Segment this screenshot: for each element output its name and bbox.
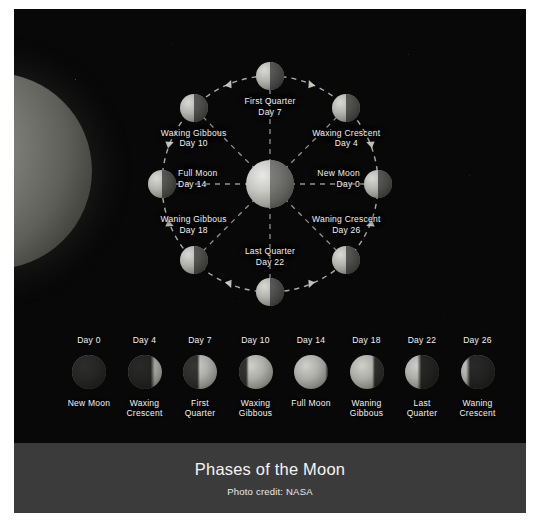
phase-cell-day: Day 4 (113, 334, 177, 346)
phase-cell-day: Day 22 (390, 334, 454, 346)
orbit-moon-name: Waxing Gibbous (134, 128, 254, 139)
page-title: Phases of the Moon (195, 460, 345, 479)
phase-cell-name: WaxingGibbous (224, 398, 288, 418)
phase-moon-shadow (128, 355, 162, 389)
phase-cell-name-line2: Gibbous (224, 408, 288, 418)
phase-cell-name-line1: Waxing (224, 398, 288, 408)
phase-moon-shadow (239, 355, 273, 389)
orbit-moon-day: Day 10 (134, 138, 254, 149)
orbit-moon-name: Waning Gibbous (134, 214, 254, 225)
phase-moon-icon (183, 355, 217, 389)
phase-cell-name-line2: Crescent (113, 408, 177, 418)
phase-moon-icon (294, 355, 328, 389)
phase-moon-icon (128, 355, 162, 389)
phase-cell-name-line1: Waning (446, 398, 510, 408)
orbit-moon-day: Day 7 (210, 107, 330, 118)
phase-moon-icon (405, 355, 439, 389)
orbit-moon-name: First Quarter (210, 96, 330, 107)
caption-band: Phases of the Moon Photo credit: NASA (14, 443, 526, 513)
orbit-moon-day: Day 14 (178, 179, 218, 190)
orbit-moon-label: Waxing CrescentDay 4 (286, 128, 406, 149)
phase-cell-day: Day 0 (57, 334, 121, 346)
phase-cell-name-line1: Waning (335, 398, 399, 408)
orbit-moon-day: Day 22 (210, 257, 330, 268)
orbit-diagram: New MoonDay 0Waxing CrescentDay 4First Q… (14, 9, 526, 329)
phase-moon-icon (72, 355, 106, 389)
orbit-moon (180, 94, 208, 122)
phase-cell-name: New Moon (57, 398, 121, 408)
phase-cell: Day 0New Moon (57, 334, 121, 444)
phase-cell-name: LastQuarter (390, 398, 454, 418)
orbit-moon-day: Day 18 (134, 225, 254, 236)
phase-cell-name-line2: Quarter (390, 408, 454, 418)
phase-cell: Day 22LastQuarter (390, 334, 454, 444)
phase-moon-icon (461, 355, 495, 389)
phase-moon-shadow (350, 355, 384, 389)
orbit-moon-day: Day 4 (286, 138, 406, 149)
phase-cell: Day 7FirstQuarter (168, 334, 232, 444)
phase-cell: Day 4WaxingCrescent (113, 334, 177, 444)
phase-cell-name-line1: First (168, 398, 232, 408)
phase-cell-name: WaxingCrescent (113, 398, 177, 418)
orbit-moon-day: Day 26 (286, 225, 406, 236)
orbit-moon (364, 170, 392, 198)
phase-cell-name-line2: Gibbous (335, 408, 399, 418)
phase-cell-day: Day 18 (335, 334, 399, 346)
phase-cell-name-line2: Crescent (446, 408, 510, 418)
orbit-moon-name: Last Quarter (210, 246, 330, 257)
phase-cell-day: Day 10 (224, 334, 288, 346)
phase-cell-name-line1: Full Moon (279, 398, 343, 408)
phase-moon-shadow (405, 355, 439, 389)
phase-moon-icon (239, 355, 273, 389)
phase-cell-name: WaningCrescent (446, 398, 510, 418)
phase-cell-name: FirstQuarter (168, 398, 232, 418)
orbit-moon-name: Waning Crescent (286, 214, 406, 225)
orbit-moon-label: Waning CrescentDay 26 (286, 214, 406, 235)
phase-cell-day: Day 26 (446, 334, 510, 346)
phase-cell-name-line1: Waxing (113, 398, 177, 408)
phase-cell-day: Day 14 (279, 334, 343, 346)
orbit-moon-label: Waxing GibbousDay 10 (134, 128, 254, 149)
phase-cell: Day 10WaxingGibbous (224, 334, 288, 444)
phase-cell-name-line1: Last (390, 398, 454, 408)
phase-strip: Day 0New MoonDay 4WaxingCrescentDay 7Fir… (14, 334, 526, 444)
orbit-moon-label: Waning GibbousDay 18 (134, 214, 254, 235)
orbit-moon-label: Full MoonDay 14 (178, 168, 218, 189)
orbit-moon-name: Full Moon (178, 168, 218, 179)
orbit-moon (256, 62, 284, 90)
phase-moon-shadow (183, 355, 217, 389)
orbit-moon-label: First QuarterDay 7 (210, 96, 330, 117)
photo-credit: Photo credit: NASA (227, 486, 312, 497)
phase-moon-shadow (294, 355, 328, 389)
phase-cell: Day 14Full Moon (279, 334, 343, 444)
phase-cell-day: Day 7 (168, 334, 232, 346)
phase-cell-name: Full Moon (279, 398, 343, 408)
phase-cell-name-line2: Quarter (168, 408, 232, 418)
orbit-moon-name: Waxing Crescent (286, 128, 406, 139)
moon-phases-poster: New MoonDay 0Waxing CrescentDay 4First Q… (14, 9, 526, 513)
phase-cell-name-line1: New Moon (57, 398, 121, 408)
phase-moon-shadow (72, 355, 106, 389)
orbit-moon-label: Last QuarterDay 22 (210, 246, 330, 267)
phase-cell: Day 18WaningGibbous (335, 334, 399, 444)
phase-cell-name: WaningGibbous (335, 398, 399, 418)
orbit-moon (256, 278, 284, 306)
phase-cell: Day 26WaningCrescent (446, 334, 510, 444)
orbit-moon (180, 246, 208, 274)
orbit-moon (332, 94, 360, 122)
phase-moon-shadow (461, 355, 495, 389)
phase-moon-icon (350, 355, 384, 389)
